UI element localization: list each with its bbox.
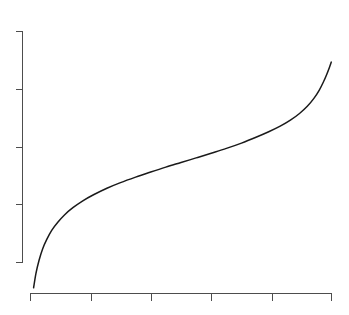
plot-canvas [0,0,349,315]
data-curve [34,62,332,288]
chart-figure [0,0,349,315]
x-axis [30,294,332,301]
y-axis [16,31,23,263]
